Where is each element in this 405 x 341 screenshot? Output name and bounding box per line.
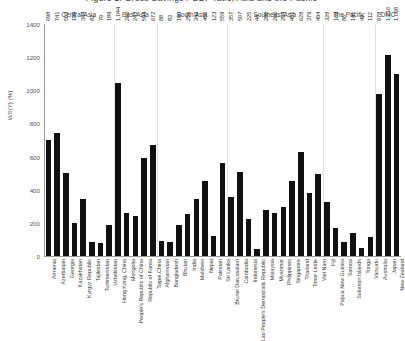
bar[interactable]	[150, 145, 156, 256]
bar-slot: 256	[183, 24, 192, 256]
category-slot: New Zealand	[392, 258, 401, 306]
category-slot: Uzbekistan	[105, 258, 114, 306]
bar-value-label: 189	[106, 12, 112, 21]
bar-slot: 628	[296, 24, 305, 256]
plot-area: 69874150319934482791891,0442602435946728…	[44, 24, 401, 256]
region-separator	[227, 24, 228, 256]
bar[interactable]	[368, 237, 374, 256]
bar[interactable]	[194, 199, 200, 256]
bar-value-label: 225	[246, 12, 252, 21]
bar[interactable]	[63, 173, 69, 256]
bar[interactable]	[89, 242, 95, 256]
bar-value-label: 79	[98, 15, 104, 21]
y-axis-tick: 0	[37, 253, 40, 260]
bar[interactable]	[167, 242, 173, 256]
bar[interactable]	[385, 55, 391, 257]
bar-value-label: 294	[281, 12, 287, 21]
bar-series: 69874150319934482791891,0442602435946728…	[44, 24, 401, 256]
category-slot: Azerbaijan	[53, 258, 62, 306]
bar[interactable]	[246, 219, 252, 256]
bar-slot: 79	[96, 24, 105, 256]
bar[interactable]	[263, 210, 269, 256]
category-slot: Armenia	[44, 258, 53, 306]
bar[interactable]	[124, 213, 130, 256]
bar[interactable]	[298, 152, 304, 256]
bar[interactable]	[176, 225, 182, 256]
category-slot: Bangladesh	[166, 258, 175, 306]
category-slot: Timor-Leste	[305, 258, 314, 306]
bar-value-label: 199	[72, 12, 78, 21]
bar-slot: 342	[192, 24, 201, 256]
bar[interactable]	[281, 207, 287, 256]
category-slot: Tonga	[357, 258, 366, 306]
category-slot: Myanmar	[270, 258, 279, 306]
category-slot: India	[183, 258, 192, 306]
bar-value-label: 280	[263, 12, 269, 21]
category-slot: Taipei,China	[148, 258, 157, 306]
bar[interactable]	[46, 140, 52, 256]
bar-slot: 243	[131, 24, 140, 256]
bar[interactable]	[54, 133, 60, 256]
bar[interactable]	[115, 83, 121, 256]
bar-slot: 328	[323, 24, 332, 256]
bar-slot: 44	[253, 24, 262, 256]
bar[interactable]	[202, 181, 208, 256]
bar-slot: 123	[209, 24, 218, 256]
bar-value-label: 44	[254, 15, 260, 21]
bar[interactable]	[133, 216, 139, 256]
category-slot: Fiji	[323, 258, 332, 306]
x-axis-category-labels: ArmeniaAzerbaijanGeorgiaKazakhstanKyrgyz…	[44, 258, 401, 306]
region-separator	[157, 24, 158, 256]
bar-slot: 260	[122, 24, 131, 256]
bar-slot: 86	[340, 24, 349, 256]
bar[interactable]	[228, 197, 234, 256]
bar[interactable]	[72, 223, 78, 256]
bar[interactable]	[185, 214, 191, 256]
y-axis-tick: 1200	[26, 54, 40, 61]
bar-value-label: 1,216	[385, 7, 391, 21]
bar-slot: 344	[79, 24, 88, 256]
bar-slot: 494	[314, 24, 323, 256]
bar-slot: 503	[61, 24, 70, 256]
bar[interactable]	[272, 213, 278, 256]
category-slot: Papua New Guinea	[331, 258, 340, 306]
bar-slot: 741	[53, 24, 62, 256]
bar[interactable]	[359, 248, 365, 256]
bar-value-label: 1,044	[115, 7, 121, 21]
bar-value-label: 451	[289, 12, 295, 21]
bar-slot: 83	[166, 24, 175, 256]
bar-slot: 1,098	[392, 24, 401, 256]
y-axis-tick: 200	[30, 219, 40, 226]
bar[interactable]	[394, 74, 400, 256]
bar[interactable]	[98, 243, 104, 256]
bar[interactable]	[350, 233, 356, 256]
region-separator	[375, 24, 376, 256]
bar-slot: 978	[375, 24, 384, 256]
bar[interactable]	[315, 174, 321, 256]
category-label: New Zealand	[399, 259, 405, 291]
category-slot: Hong Kong, China	[114, 258, 123, 306]
bar[interactable]	[289, 181, 295, 256]
bar[interactable]	[254, 249, 260, 256]
bar[interactable]	[237, 172, 243, 256]
bar-slot: 225	[244, 24, 253, 256]
bar-value-label: 1,098	[394, 7, 400, 21]
x-axis-line	[44, 256, 401, 257]
bar[interactable]	[80, 199, 86, 256]
bar[interactable]	[220, 163, 226, 256]
bar[interactable]	[376, 94, 382, 256]
bar-slot: 112	[366, 24, 375, 256]
bar[interactable]	[307, 193, 313, 256]
bar[interactable]	[141, 158, 147, 256]
category-slot: Australia	[375, 258, 384, 306]
bar[interactable]	[324, 202, 330, 256]
bar[interactable]	[106, 225, 112, 256]
bar[interactable]	[333, 228, 339, 256]
bar[interactable]	[159, 241, 165, 256]
bar-value-label: 260	[124, 12, 130, 21]
bar[interactable]	[341, 242, 347, 256]
y-axis-label: WS(Y) (%)	[6, 76, 13, 136]
region-separator	[323, 24, 324, 256]
bar[interactable]	[211, 236, 217, 256]
